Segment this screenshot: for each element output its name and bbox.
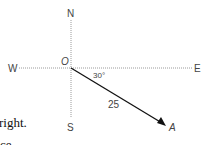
- angle-label: 30°: [93, 71, 105, 80]
- south-label: S: [67, 122, 74, 133]
- origin-label: O: [61, 56, 69, 67]
- length-label: 25: [108, 99, 120, 110]
- arrowhead-icon: [157, 117, 166, 126]
- west-label: W: [8, 63, 18, 74]
- north-label: N: [67, 8, 74, 19]
- compass-diagram: N S W E O A 30° 25 right. ce: [0, 0, 204, 145]
- point-a-label: A: [168, 122, 176, 133]
- vector-oa: [71, 68, 162, 123]
- east-label: E: [194, 63, 201, 74]
- body-text-line-1: right.: [0, 115, 27, 130]
- body-text-line-2: ce: [0, 137, 12, 145]
